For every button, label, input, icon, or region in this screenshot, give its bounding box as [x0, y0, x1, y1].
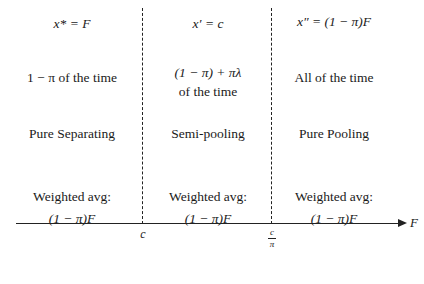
tick-c-over-pi: c π — [268, 228, 276, 249]
threshold-line-c — [142, 8, 143, 224]
tick-numerator: c — [270, 228, 274, 237]
frequency-semi-pooling-line1: (1 − π) + πλ — [175, 65, 242, 81]
weighted-label-col1: Weighted avg: — [33, 189, 111, 205]
frequency-semi-pooling-line2: of the time — [179, 84, 237, 100]
regime-semi-pooling: Semi-pooling — [171, 126, 245, 142]
equation-semi-pooling: x′ = c — [193, 16, 224, 32]
weighted-value-col3: (1 − π)F — [311, 211, 358, 227]
weighted-label-col2: Weighted avg: — [169, 189, 247, 205]
weighted-value-col1: (1 − π)F — [49, 211, 96, 227]
threshold-line-c-over-pi — [271, 8, 272, 224]
weighted-value-col2: (1 − π)F — [185, 211, 232, 227]
equation-pure-separating: x* = F — [54, 16, 91, 32]
frequency-pure-separating: 1 − π of the time — [27, 70, 117, 86]
axis-label-f: F — [410, 215, 418, 231]
f-axis — [16, 223, 398, 224]
tick-denominator: π — [270, 240, 275, 249]
frequency-pure-pooling: All of the time — [294, 70, 373, 86]
axis-arrow-icon — [398, 219, 407, 227]
regime-pure-pooling: Pure Pooling — [299, 126, 369, 142]
tick-c: c — [140, 226, 145, 242]
equation-pure-pooling: x″ = (1 − π)F — [297, 14, 371, 30]
weighted-label-col3: Weighted avg: — [295, 189, 373, 205]
regime-pure-separating: Pure Separating — [29, 126, 115, 142]
